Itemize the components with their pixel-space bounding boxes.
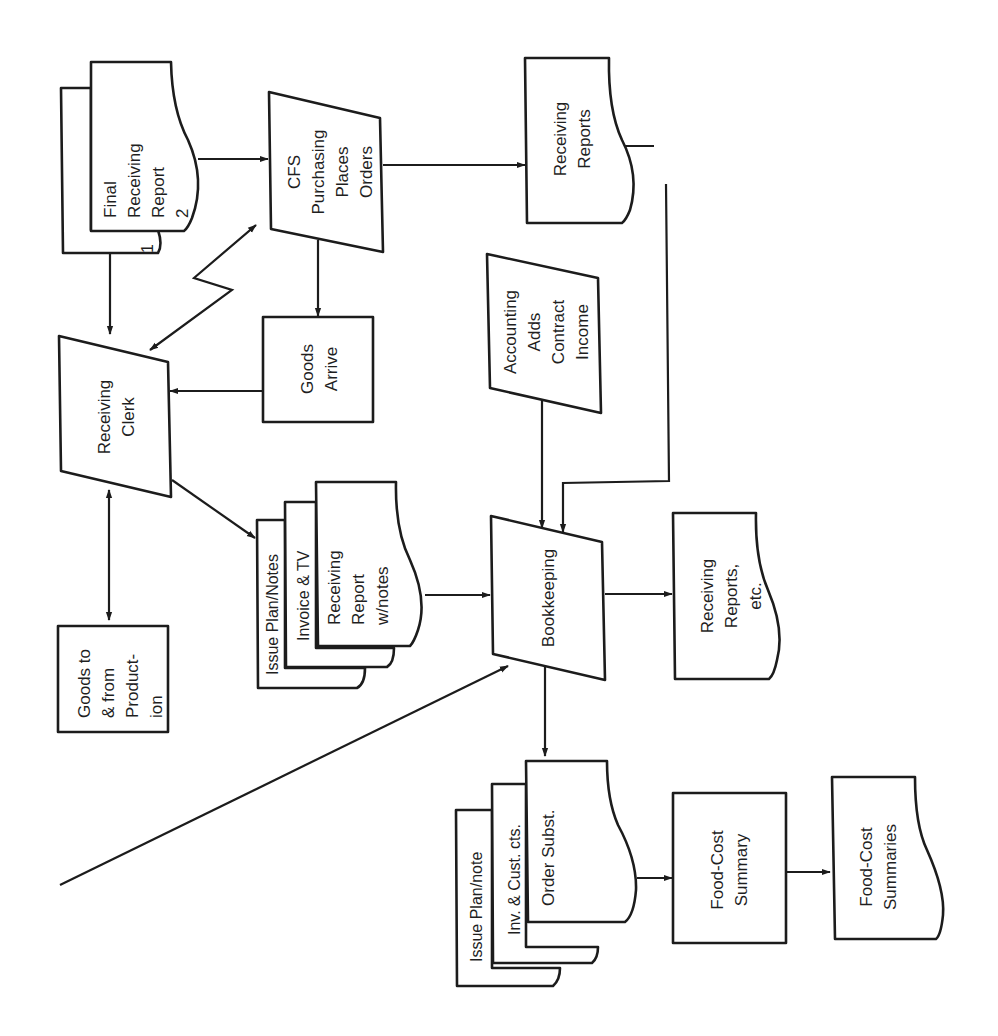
- flowchart-canvas: 1 Final Receiving Report 2 CFS Purchasin…: [0, 0, 998, 1036]
- receiving-reports-top-line-1: Receiving: [551, 102, 570, 177]
- goods-arrive[interactable]: Goods Arrive: [263, 317, 373, 422]
- cfs-line-1: CFS: [285, 155, 304, 189]
- accounting-line-3: Contract: [549, 300, 568, 365]
- bookkeeping[interactable]: Bookkeeping: [491, 516, 605, 680]
- goods-production-line-3: Product-: [123, 654, 142, 718]
- goods-arrive-line-2: Arrive: [322, 347, 341, 391]
- receiving-reports-etc-line-2: Reports,: [722, 564, 741, 628]
- final-report-line-1: Final: [101, 181, 120, 218]
- bk-doc-inv-cust-label: Inv. & Cust. cts.: [506, 824, 523, 935]
- cfs-purchasing-places-orders[interactable]: CFS Purchasing Places Orders: [269, 92, 383, 252]
- goods-to-from-production[interactable]: Goods to & from Product- ion: [58, 626, 168, 732]
- food-cost-summaries[interactable]: Food-Cost Summaries: [832, 777, 943, 939]
- goods-production-line-4: ion: [147, 695, 166, 718]
- receiving-clerk[interactable]: Receiving Clerk: [59, 336, 171, 497]
- bookkeeping-document-stack[interactable]: Issue Plan/note Inv. & Cust. cts. Order …: [456, 761, 636, 986]
- receiving-reports-top[interactable]: Receiving Reports: [525, 58, 634, 223]
- food-cost-summaries-line-2: Summaries: [881, 824, 900, 910]
- clerk-doc-receiving-line-3: w/notes: [373, 566, 392, 626]
- accounting-line-1: Accounting: [501, 290, 520, 374]
- cfs-line-3: Places: [333, 146, 352, 197]
- clerk-doc-receiving-line-1: Receiving: [325, 550, 344, 625]
- clerk-doc-invoice-label: Invoice & TV: [295, 550, 312, 641]
- food-cost-summary-shape: [673, 793, 786, 943]
- final-report-line-2: Receiving: [125, 143, 144, 218]
- bookkeeping-label: Bookkeeping: [539, 549, 558, 647]
- food-cost-summary-line-1: Food-Cost: [708, 830, 727, 910]
- food-cost-summary-line-2: Summary: [732, 833, 751, 906]
- receiving-clerk-line-2: Clerk: [119, 397, 138, 437]
- cfs-line-4: Orders: [357, 146, 376, 198]
- final-receiving-report[interactable]: 1 Final Receiving Report 2: [61, 62, 198, 253]
- clerk-doc-issue-plan-label: Issue Plan/Notes: [264, 554, 281, 675]
- receiving-clerk-shape: [59, 336, 171, 497]
- clerk-doc-receiving-line-2: Report: [349, 574, 368, 625]
- food-cost-summary[interactable]: Food-Cost Summary: [673, 793, 786, 943]
- accounting-adds-contract-income[interactable]: Accounting Adds Contract Income: [487, 254, 601, 413]
- final-report-line-4: 2: [173, 209, 192, 218]
- final-report-line-3: Report: [149, 167, 168, 218]
- food-cost-summaries-line-1: Food-Cost: [857, 827, 876, 907]
- receiving-clerk-line-1: Receiving: [95, 380, 114, 455]
- receiving-reports-top-line-2: Reports: [575, 109, 594, 169]
- clerk-document-stack[interactable]: Issue Plan/Notes Invoice & TV Receiving …: [257, 482, 422, 688]
- accounting-line-4: Income: [573, 304, 592, 360]
- goods-arrive-line-1: Goods: [298, 344, 317, 394]
- accounting-line-2: Adds: [525, 313, 544, 352]
- final-report-copy-1-number: 1: [139, 244, 156, 253]
- goods-production-line-2: & from: [99, 668, 118, 718]
- cfs-line-2: Purchasing: [309, 129, 328, 214]
- edge-clerk-to-docs: [172, 480, 255, 538]
- goods-production-line-1: Goods to: [75, 649, 94, 718]
- goods-arrive-shape: [263, 317, 373, 422]
- receiving-reports-etc[interactable]: Receiving Reports, etc.: [673, 513, 780, 679]
- bk-doc-issue-plan-label: Issue Plan/note: [468, 852, 485, 962]
- receiving-reports-etc-line-3: etc.: [746, 582, 765, 609]
- edge-zigzag-cfs-clerk: [150, 225, 256, 350]
- bk-doc-order-subst-label: Order Subst.: [539, 810, 558, 906]
- receiving-reports-etc-line-1: Receiving: [698, 559, 717, 634]
